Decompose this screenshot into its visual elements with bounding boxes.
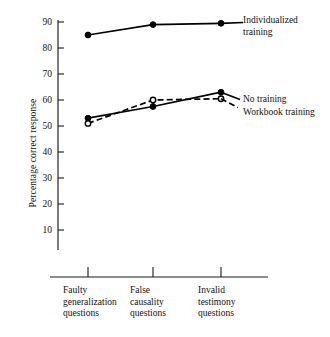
series-workbook-training xyxy=(85,96,223,126)
series-label-workbook-training: Workbook training xyxy=(243,107,315,119)
x-category-invalid-testimony-line-1: Invalid xyxy=(198,285,276,297)
leader-line-individualized-training xyxy=(221,23,243,24)
x-category-false-causality-line-2: causality xyxy=(130,297,208,309)
series-label-no-training: No training xyxy=(243,94,287,106)
x-category-invalid-testimony-line-2: testimony xyxy=(198,297,276,309)
series-label-individualized-training: Individualized training xyxy=(243,15,298,38)
series-label-individualized-line-2: training xyxy=(243,27,298,39)
x-category-label-invalid-testimony: Invalid testimony questions xyxy=(198,285,276,320)
x-category-false-causality-line-1: False xyxy=(130,285,208,297)
leader-line-workbook-training xyxy=(221,99,238,108)
data-point-individualized-faulty xyxy=(85,32,91,38)
data-point-individualized-false-causality xyxy=(150,22,156,28)
x-category-false-causality-line-3: questions xyxy=(130,308,208,320)
x-category-invalid-testimony-line-3: questions xyxy=(198,308,276,320)
x-category-label-false-causality: False causality questions xyxy=(130,285,208,320)
series-individualized-training xyxy=(85,20,224,37)
series-leader-lines xyxy=(221,23,243,108)
data-point-workbook-faulty xyxy=(85,121,90,126)
data-point-no-training-false-causality xyxy=(150,104,156,110)
data-point-workbook-false-causality xyxy=(150,97,155,102)
x-axis-ticks xyxy=(88,267,221,277)
chart-figure: Percentage correct response 90 80 70 60 … xyxy=(0,0,330,337)
series-label-individualized-line-1: Individualized xyxy=(243,15,298,27)
y-axis-ticks xyxy=(58,22,64,230)
